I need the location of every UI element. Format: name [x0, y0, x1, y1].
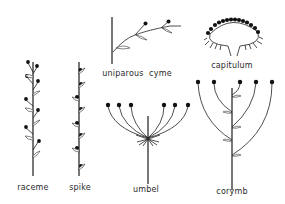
uniparous-cyme-label: uniparous cyme [102, 69, 172, 78]
capitulum-label: capitulum [211, 61, 253, 70]
capitulum-drawing [204, 17, 263, 56]
corymb-label: corymb [216, 187, 247, 196]
inflorescence-diagram [0, 0, 285, 204]
umbel-label: umbel [133, 185, 159, 194]
umbel-drawing [106, 103, 190, 184]
raceme-drawing [24, 60, 41, 176]
corymb-drawing [196, 80, 274, 190]
spike-drawing [72, 62, 85, 176]
spike-label: spike [69, 183, 91, 192]
raceme-label: raceme [17, 183, 48, 192]
uniparous-cyme-drawing [112, 17, 181, 64]
